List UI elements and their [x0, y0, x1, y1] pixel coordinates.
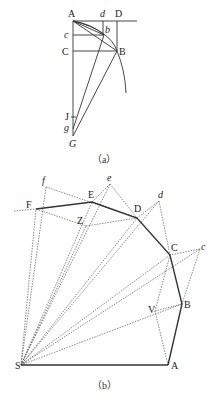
- ray-Se: [21, 184, 110, 365]
- label-S: S: [15, 360, 21, 371]
- figure-a: A d D c b C B J g G （a）: [62, 8, 137, 165]
- polygon-FEDCBA: [36, 202, 182, 365]
- label-E: E: [88, 189, 94, 200]
- geometry-diagram: A d D c b C B J g G （a）: [0, 0, 213, 405]
- label-A: A: [171, 360, 179, 371]
- label-C: C: [171, 242, 178, 253]
- label-D: D: [115, 8, 122, 19]
- label-F: F: [26, 199, 32, 210]
- line-VA: [155, 311, 168, 365]
- label-B: B: [119, 46, 126, 57]
- line-ZD: [86, 218, 137, 226]
- label-V: V: [148, 304, 156, 315]
- caption-b: （b）: [92, 380, 117, 391]
- chord-AB: [73, 21, 117, 51]
- chord-Ab: [73, 21, 104, 35]
- label-b: b: [105, 24, 110, 35]
- caption-a: （a）: [92, 154, 116, 165]
- label-c: c: [64, 29, 69, 40]
- line-CV: [155, 255, 170, 311]
- line-dC: [159, 201, 170, 255]
- line-bg: [73, 35, 104, 129]
- ray-SF: [21, 209, 36, 365]
- ext-F: [14, 209, 36, 211]
- ray-Sf: [21, 187, 46, 365]
- label-B: B: [184, 299, 191, 310]
- label-d: d: [158, 189, 164, 200]
- label-f: f: [42, 175, 46, 186]
- ray-SD: [21, 218, 137, 365]
- figure-b: S A B C D E F f e d c Z V （b）: [14, 172, 206, 391]
- label-A: A: [68, 8, 76, 19]
- label-d: d: [100, 8, 106, 19]
- label-c: c: [201, 241, 206, 252]
- line-BG: [73, 51, 117, 136]
- label-D: D: [134, 203, 141, 214]
- label-g: g: [64, 122, 69, 133]
- ray-SE: [21, 202, 92, 365]
- line-eE: [92, 184, 110, 202]
- label-Z: Z: [77, 215, 83, 226]
- label-e: e: [107, 172, 112, 183]
- label-J: J: [65, 111, 69, 122]
- label-C: C: [62, 46, 69, 57]
- line-cB: [182, 249, 200, 304]
- line-VB: [155, 304, 182, 311]
- label-G: G: [69, 138, 76, 149]
